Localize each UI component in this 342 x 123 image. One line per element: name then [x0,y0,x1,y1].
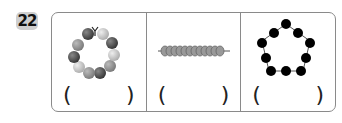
question-number-badge: 22 [16,12,38,30]
close-paren: ) [315,82,324,107]
answer-box: ( ) ( ) ( ) [51,12,336,112]
open-paren: ( [63,82,72,107]
cell-bead-string: ( ) [146,13,241,111]
cell-bead-pentagon: ( ) [240,13,335,111]
open-paren: ( [252,82,261,107]
close-paren: ) [221,82,230,107]
open-paren: ( [158,82,167,107]
cell-bead-ring: ( ) [52,13,146,111]
close-paren: ) [126,82,135,107]
